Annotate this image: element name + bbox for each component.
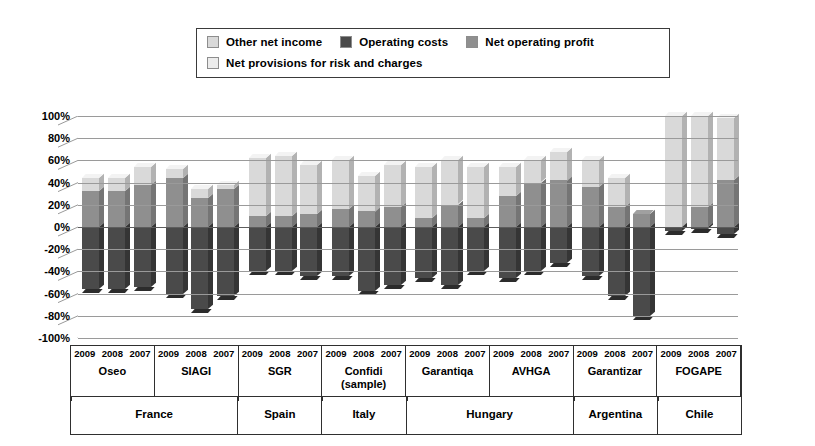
- y-axis-tick-label: 80%: [18, 132, 70, 144]
- bar-segment-bottom: [665, 231, 686, 235]
- axis-year-label: 2008: [601, 346, 629, 362]
- bar-segment-side: [650, 223, 655, 316]
- legend-swatch-icon: [207, 36, 219, 48]
- bar-segment-top: [550, 148, 571, 152]
- legend-item-operating_costs[interactable]: Operating costs: [340, 36, 448, 48]
- bar-segment-bottom: [415, 278, 436, 282]
- bar-segment-other-net-income: [249, 158, 266, 216]
- bar-segment-operating-costs: [166, 227, 183, 294]
- bar-segment-net-operating-profit: [415, 218, 432, 227]
- axis-year-label: 2008: [517, 346, 545, 362]
- legend-item-net_operating_profit[interactable]: Net operating profit: [466, 36, 594, 48]
- bar-segment-operating-costs: [550, 227, 567, 263]
- bar-segment-side: [541, 223, 546, 272]
- bar-segment-side: [625, 223, 630, 296]
- legend-label: Operating costs: [359, 36, 448, 48]
- bar-segment-side: [208, 223, 213, 309]
- axis-year-row: 200920082007: [657, 346, 740, 362]
- bar-segment-operating-costs: [134, 227, 151, 287]
- bar-segment-side: [432, 163, 437, 218]
- bar-segment-side: [266, 223, 271, 272]
- axis-institution-label: Confidi (sample): [322, 362, 405, 396]
- y-axis-tick-label: 40%: [18, 177, 70, 189]
- axis-group-garantiqa: 200920082007Garantiqa: [406, 346, 490, 396]
- axis-group-avhga: 200920082007AVHGA: [490, 346, 574, 396]
- bar-segment-bottom: [608, 296, 629, 300]
- bar-segment-other-net-income: [82, 178, 99, 191]
- zero-axis-line: [78, 227, 738, 228]
- bar-segment-side: [234, 185, 239, 227]
- axis-year-label: 2007: [461, 346, 489, 362]
- bar-segment-other-net-income: [524, 160, 541, 182]
- bar-segment-side: [516, 192, 521, 227]
- legend-item-other_net_income[interactable]: Other net income: [207, 36, 322, 48]
- axis-year-label: 2008: [685, 346, 713, 362]
- axis-country-label-argentina: Argentina: [574, 397, 658, 434]
- bar-segment-side: [234, 223, 239, 296]
- bar-segment-net-operating-profit: [358, 211, 375, 227]
- axis-tick-mark: [574, 396, 575, 401]
- axis-institution-label: SGR: [239, 362, 322, 396]
- legend-item-net_provisions[interactable]: Net provisions for risk and charges: [207, 57, 423, 69]
- bar-segment-bottom: [384, 285, 405, 289]
- bar-segment-operating-costs: [582, 227, 599, 276]
- bar-segment-net-operating-profit: [217, 189, 234, 227]
- bar-segment-top: [467, 163, 488, 167]
- bar-segment-net-operating-profit: [134, 185, 151, 227]
- axis-year-label: 2009: [574, 346, 602, 362]
- bar-segment-other-net-income: [275, 156, 292, 216]
- bar-segment-other-net-income: [467, 167, 484, 218]
- axis-tick-mark: [71, 396, 72, 401]
- bar-segment-side: [458, 223, 463, 285]
- axis-institution-label: FOGAPE: [657, 362, 740, 396]
- bar-segment-other-net-income: [499, 167, 516, 196]
- bar-segment-net-operating-profit: [275, 216, 292, 227]
- bar-segment-net-operating-profit: [82, 191, 99, 227]
- bar-segment-other-net-income: [717, 118, 734, 180]
- axis-group-sgr: 200920082007SGR: [239, 346, 323, 396]
- axis-year-label: 2009: [322, 346, 350, 362]
- bar-segment-operating-costs: [358, 227, 375, 291]
- bar-segment-net-operating-profit: [550, 180, 567, 227]
- plot-area: 100%80%60%40%20%0%-20%-40%-60%-80%-100%: [78, 116, 738, 338]
- bar-segment-top: [499, 163, 520, 167]
- bar-segment-operating-costs: [608, 227, 625, 296]
- axis-tick-mark: [322, 396, 323, 401]
- axis-institution-label: Garantizar: [574, 362, 657, 396]
- y-axis-tick-label: 0%: [18, 221, 70, 233]
- axis-year-row: 200920082007: [490, 346, 573, 362]
- axis-group-oseo: 200920082007Oseo: [71, 346, 155, 396]
- bar-segment-net-operating-profit: [191, 198, 208, 227]
- chart-legend: Other net incomeOperating costsNet opera…: [196, 28, 670, 78]
- bar-segment-bottom: [191, 309, 212, 313]
- axis-year-row: 200920082007: [71, 346, 154, 362]
- bar-segment-bottom: [717, 234, 738, 238]
- x-axis-country-row: FranceSpainItalyHungaryArgentinaChile: [70, 397, 742, 435]
- bar-segment-operating-costs: [191, 227, 208, 309]
- bar-segment-net-operating-profit: [384, 207, 401, 227]
- bar-segment-other-net-income: [691, 116, 708, 207]
- legend-label: Net operating profit: [485, 36, 594, 48]
- bar-segment-side: [734, 114, 739, 180]
- axis-year-label: 2008: [434, 346, 462, 362]
- axis-group-garantizar: 200920082007Garantizar: [574, 346, 658, 396]
- bar-segment-other-net-income: [665, 116, 682, 227]
- axis-year-label: 2009: [239, 346, 267, 362]
- axis-group-confidisample: 200920082007Confidi (sample): [322, 346, 406, 396]
- bar-segment-other-net-income: [300, 165, 317, 214]
- axis-year-row: 200920082007: [406, 346, 489, 362]
- legend-swatch-icon: [466, 36, 478, 48]
- bar-segment-operating-costs: [332, 227, 349, 276]
- bar-segment-side: [484, 163, 489, 218]
- bar-segment-top: [249, 154, 270, 158]
- axis-country-label-hungary: Hungary: [407, 397, 574, 434]
- gridline: [78, 205, 738, 206]
- legend-swatch-icon: [340, 36, 352, 48]
- bar-segment-side: [292, 223, 297, 272]
- y-axis-tick-label: 60%: [18, 154, 70, 166]
- x-axis-group-table: 200920082007Oseo200920082007SIAGI2009200…: [70, 345, 742, 397]
- bar-segment-side: [151, 223, 156, 287]
- bar-segment-operating-costs: [82, 227, 99, 289]
- bar-segment-net-operating-profit: [166, 178, 183, 227]
- bar-segment-net-operating-profit: [467, 218, 484, 227]
